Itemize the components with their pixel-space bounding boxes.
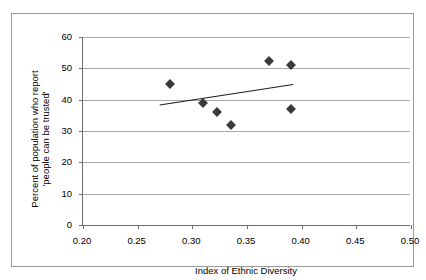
x-axis-tick [192,225,193,229]
y-tick-label: 40 [46,95,72,105]
figure-frame: Percent of population who report 'people… [11,13,414,267]
plot-area [82,37,410,225]
y-tick-label: 20 [46,157,72,167]
y-axis-tick [79,162,83,163]
x-axis-tick [83,225,84,229]
x-tick-label: 0.20 [62,236,102,246]
data-point-marker [166,79,176,89]
gridline-y [83,100,410,101]
gridline-y [83,131,410,132]
x-tick-label: 0.45 [335,236,375,246]
y-axis-tick [79,100,83,101]
gridline-y [83,162,410,163]
x-tick-label: 0.25 [117,236,157,246]
gridline-y [83,37,410,38]
data-point-marker [213,107,223,117]
y-tick-label: 0 [46,220,72,230]
y-axis-title-text: Percent of population who report 'people… [29,54,51,224]
gridline-y [83,194,410,195]
y-tick-label: 10 [46,189,72,199]
y-tick-label: 60 [46,32,72,42]
x-axis-tick [356,225,357,229]
y-axis-tick [79,37,83,38]
y-axis-tick [79,131,83,132]
y-axis-title: Percent of population who report 'people… [28,54,52,224]
x-axis-tick [247,225,248,229]
x-axis-title: Index of Ethnic Diversity [82,265,410,276]
x-axis-tick [302,225,303,229]
data-point-marker [226,120,236,130]
x-tick-label: 0.35 [226,236,266,246]
y-axis-tick [79,68,83,69]
x-axis-tick [411,225,412,229]
chart-root: Percent of population who report 'people… [0,0,426,280]
y-tick-label: 30 [46,126,72,136]
gridline-y [83,68,410,69]
x-axis-tick [138,225,139,229]
x-tick-label: 0.50 [390,236,426,246]
data-point-marker [264,56,274,66]
y-axis-tick [79,194,83,195]
x-tick-label: 0.30 [171,236,211,246]
y-tick-label: 50 [46,63,72,73]
x-tick-label: 0.40 [281,236,321,246]
data-point-marker [286,104,296,114]
